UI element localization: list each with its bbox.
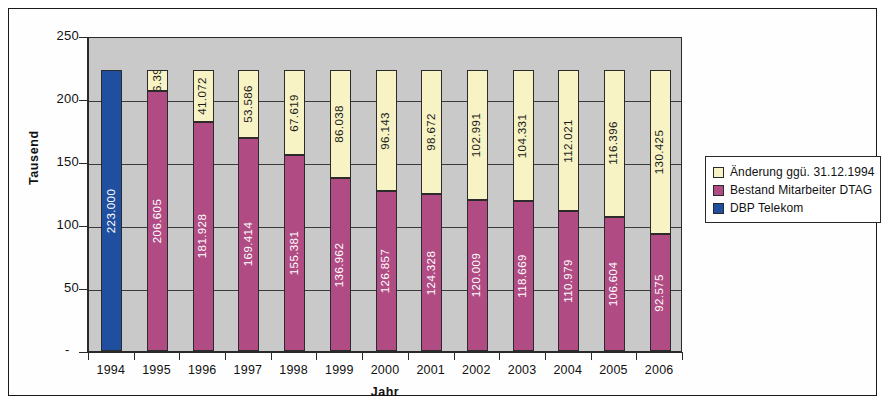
bar-value-label: 120.009: [472, 253, 484, 297]
bar-column: 155.38167.619: [284, 36, 305, 351]
bar-segment-bestand: 124.328: [421, 194, 442, 351]
legend-swatch-aenderung: [713, 167, 724, 178]
bar-segment-aenderung: 96.143: [376, 70, 397, 191]
x-axis-label: 2003: [500, 363, 544, 377]
legend-label-bestand: Bestand Mitarbeiter DTAG: [730, 183, 872, 197]
x-axis-label: 2006: [637, 363, 681, 377]
x-axis-tick: [454, 352, 455, 360]
bar-value-label: 102.991: [472, 113, 484, 157]
x-axis-tick: [636, 352, 637, 360]
bar-value-label: 130.425: [654, 130, 666, 174]
bar-column: 118.669104.331: [513, 36, 534, 351]
x-axis-label: 2005: [591, 363, 635, 377]
chart-figure: Tausend -50100150200250 223.000206.60516…: [0, 0, 891, 411]
bar-segment-bestand: 155.381: [284, 155, 305, 351]
bar-value-label: 136.962: [335, 243, 347, 287]
legend-label-dbp: DBP Telekom: [730, 201, 803, 215]
legend-swatch-dbp: [713, 203, 724, 214]
bar-segment-bestand: 136.962: [330, 178, 351, 351]
x-axis-label: 2004: [546, 363, 590, 377]
bar-value-label: 16.395: [152, 70, 164, 91]
bar-segment-aenderung: 104.331: [513, 70, 534, 201]
bar-value-label: 118.669: [517, 254, 529, 298]
y-axis-label: 100: [33, 217, 79, 232]
x-axis-label: 1995: [135, 363, 179, 377]
x-axis-tick: [88, 352, 89, 360]
bar-value-label: 155.381: [289, 231, 301, 275]
legend-swatch-bestand: [713, 185, 724, 196]
x-axis-label: 1997: [226, 363, 270, 377]
y-axis-label: -: [65, 342, 69, 357]
bar-segment-aenderung: 112.021: [558, 70, 579, 211]
bar-segment-bestand: 110.979: [558, 211, 579, 351]
bar-value-label: 96.143: [380, 112, 392, 150]
bar-segment-aenderung: 41.072: [193, 70, 214, 122]
bar-segment-bestand: 118.669: [513, 201, 534, 351]
bar-value-label: 53.586: [243, 85, 255, 123]
bar-segment-aenderung: 16.395: [147, 70, 168, 91]
bar-column: 181.92841.072: [193, 36, 214, 351]
bar-segment-aenderung: 98.672: [421, 70, 442, 194]
legend-item-dbp[interactable]: DBP Telekom: [713, 201, 874, 215]
bar-value-label: 98.672: [426, 113, 438, 151]
bar-segment-bestand: 181.928: [193, 122, 214, 351]
bar-value-label: 41.072: [197, 77, 209, 115]
bar-segment-dbp-telekom: 223.000: [101, 70, 122, 351]
bar-value-label: 181.928: [197, 214, 209, 258]
y-axis-label: 250: [33, 28, 79, 43]
bar-segment-bestand: 126.857: [376, 191, 397, 351]
bar-value-label: 126.857: [380, 249, 392, 293]
bar-column: 106.604116.396: [604, 36, 625, 351]
bar-segment-bestand: 169.414: [238, 138, 259, 351]
bar-segment-aenderung: 86.038: [330, 70, 351, 178]
bar-column: 169.41453.586: [238, 36, 259, 351]
x-axis-tick: [179, 352, 180, 360]
x-axis-label: 2001: [409, 363, 453, 377]
x-axis-tick: [362, 352, 363, 360]
bar-value-label: 104.331: [517, 114, 529, 158]
x-axis-label: 2002: [454, 363, 498, 377]
bar-value-label: 116.396: [609, 122, 621, 166]
y-axis-label: 50: [33, 280, 79, 295]
x-axis-label: 1994: [89, 363, 133, 377]
x-axis-line: [87, 352, 683, 353]
x-axis-label: 1999: [317, 363, 361, 377]
x-axis-tick: [134, 352, 135, 360]
bar-value-label: 110.979: [563, 259, 575, 303]
x-axis-tick: [408, 352, 409, 360]
bar-segment-bestand: 106.604: [604, 217, 625, 351]
bar-segment-bestand: 206.605: [147, 91, 168, 351]
bar-value-label: 92.575: [654, 274, 666, 312]
bar-value-label: 86.038: [335, 105, 347, 143]
bar-segment-bestand: 92.575: [650, 234, 671, 351]
bar-column: 92.575130.425: [650, 36, 671, 351]
bar-segment-aenderung: 130.425: [650, 70, 671, 234]
legend-item-bestand[interactable]: Bestand Mitarbeiter DTAG: [713, 183, 874, 197]
x-axis-title: Jahr: [88, 385, 682, 399]
x-axis-label: 1996: [180, 363, 224, 377]
legend-item-aenderung[interactable]: Änderung ggü. 31.12.1994: [713, 165, 874, 179]
bar-value-label: 67.619: [289, 94, 301, 132]
x-axis-tick: [591, 352, 592, 360]
bar-value-label: 223.000: [106, 188, 118, 232]
y-axis-label: 200: [33, 91, 79, 106]
x-axis-tick: [682, 352, 683, 360]
bar-column: 120.009102.991: [467, 36, 488, 351]
bar-column: 110.979112.021: [558, 36, 579, 351]
legend-label-aenderung: Änderung ggü. 31.12.1994: [730, 165, 875, 179]
bar-column: 126.85796.143: [376, 36, 397, 351]
chart-legend: Änderung ggü. 31.12.1994 Bestand Mitarbe…: [705, 156, 881, 223]
x-axis-label: 1998: [272, 363, 316, 377]
bar-segment-aenderung: 102.991: [467, 70, 488, 200]
bar-segment-bestand: 120.009: [467, 200, 488, 351]
x-axis-tick: [271, 352, 272, 360]
x-axis-tick: [316, 352, 317, 360]
x-axis-tick: [225, 352, 226, 360]
bar-column: 136.96286.038: [330, 36, 351, 351]
plot-area: 223.000206.60516.395181.92841.072169.414…: [88, 37, 682, 352]
bar-value-label: 169.414: [243, 222, 255, 266]
bar-segment-aenderung: 67.619: [284, 70, 305, 155]
x-axis-tick: [499, 352, 500, 360]
x-axis-label: 2000: [363, 363, 407, 377]
bar-value-label: 124.328: [426, 250, 438, 294]
